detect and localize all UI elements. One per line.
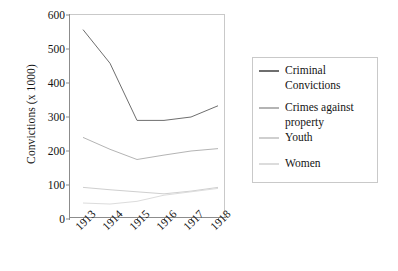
legend-item-label: Criminal Convictions	[285, 63, 377, 93]
y-axis-title: Convictions (x 1000)	[25, 19, 37, 209]
legend-item[interactable]: Crimes against property	[259, 100, 377, 130]
plot-area: 0100200300400500600	[69, 14, 225, 218]
series-line	[83, 188, 218, 204]
legend-line-swatch-icon	[259, 70, 279, 72]
data-series-lines	[70, 15, 226, 219]
y-tick-label: 400	[48, 77, 65, 89]
y-tick-label: 500	[48, 43, 65, 55]
legend-line-swatch-icon	[259, 137, 279, 139]
legend-item-label: Youth	[285, 130, 313, 145]
line-chart-figure: Convictions (x 1000) 0100200300400500600…	[0, 0, 398, 271]
legend-item-label: Women	[285, 156, 320, 171]
chart-legend: Criminal ConvictionsCrimes against prope…	[252, 57, 378, 183]
legend-item[interactable]: Youth	[259, 130, 377, 145]
legend-line-swatch-icon	[259, 107, 279, 109]
legend-item[interactable]: Women	[259, 156, 377, 171]
series-line	[83, 30, 218, 121]
legend-item-label: Crimes against property	[285, 100, 377, 130]
legend-item[interactable]: Criminal Convictions	[259, 63, 377, 93]
y-tick-label: 600	[48, 9, 65, 21]
series-line	[83, 137, 218, 159]
legend-line-swatch-icon	[259, 163, 279, 165]
y-tick-label: 0	[59, 213, 65, 225]
y-tick-label: 300	[48, 111, 65, 123]
y-tick-label: 200	[48, 145, 65, 157]
y-tick-label: 100	[48, 179, 65, 191]
